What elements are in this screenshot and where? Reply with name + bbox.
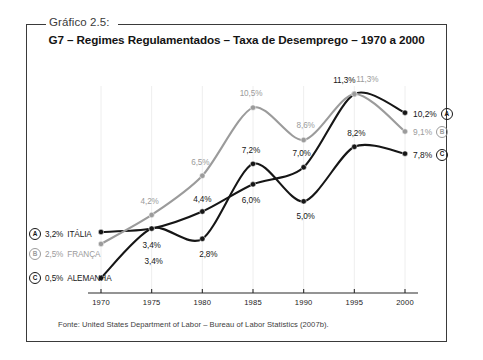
data-point-alemanha-1995	[352, 144, 357, 149]
legend-item-itália: A3,2%ITÁLIA	[29, 228, 92, 240]
end-label-value-a: 10,2%	[413, 109, 437, 119]
point-label-itália-1975: 3,4%	[143, 240, 161, 249]
data-point-alemanha-1990	[301, 199, 306, 204]
legend-label-itália: ITÁLIA	[67, 230, 91, 239]
point-label-frança-1985: 10,5%	[240, 88, 263, 97]
point-label-itália-1980: 4,4%	[193, 194, 211, 203]
legend-item-frança: B2,5%FRANÇA	[29, 248, 100, 260]
data-point-frança-1995	[352, 91, 357, 96]
legend-badge-icon-c: C	[29, 272, 41, 284]
data-point-itália-1985	[250, 182, 255, 187]
end-label-badge-icon-b: B	[436, 126, 448, 138]
end-label-c: 7,8%C	[413, 149, 448, 161]
legend-value-itália: 3,2%	[45, 230, 63, 239]
point-label-itália-1985: 6,0%	[242, 196, 260, 205]
point-label-frança-1980: 6,5%	[191, 157, 209, 166]
x-axis-label-1990: 1990	[295, 298, 313, 307]
data-point-frança-1980	[200, 173, 205, 178]
legend-label-alemanha: ALEMANHA	[67, 274, 111, 283]
end-label-badge-icon-a: A	[441, 108, 453, 120]
legend-label-frança: FRANÇA	[67, 250, 100, 259]
point-label-alemanha-1980: 2,8%	[199, 249, 217, 258]
end-label-value-b: 9,1%	[413, 127, 432, 137]
x-axis-label-1975: 1975	[143, 298, 161, 307]
data-point-frança-1970	[98, 241, 103, 246]
end-label-value-c: 7,8%	[413, 150, 432, 160]
legend-badge-icon-b: B	[29, 248, 41, 260]
data-point-frança-1975	[149, 212, 154, 217]
point-label-alemanha-1975: 3,4%	[145, 256, 163, 265]
chart-figure: Gráfico 2.5: G7 – Regimes Regulamentados…	[0, 0, 483, 360]
data-point-itália-1990	[301, 165, 306, 170]
x-axis-label-1980: 1980	[193, 298, 211, 307]
data-point-frança-1985	[250, 105, 255, 110]
legend-item-alemanha: C0,5%ALEMANHA	[29, 272, 112, 284]
point-label-frança-1975: 4,2%	[141, 196, 159, 205]
data-point-itália-2000	[402, 110, 407, 115]
point-label-frança-1990: 8,6%	[297, 121, 315, 130]
end-label-a: 10,2%A	[413, 108, 453, 120]
data-point-alemanha-1975	[149, 226, 154, 231]
end-label-b: 9,1%B	[413, 126, 448, 138]
source-note: Fonte: United States Department of Labor…	[58, 320, 329, 329]
point-label-itália-1995: 11,3%	[333, 76, 355, 85]
data-point-frança-1990	[301, 137, 306, 142]
end-label-badge-icon-c: C	[436, 149, 448, 161]
point-label-itália-1990: 7,0%	[293, 149, 311, 158]
data-point-itália-1970	[98, 229, 103, 234]
data-point-itália-1980	[200, 209, 205, 214]
point-label-alemanha-1995: 8,2%	[347, 128, 365, 137]
x-axis-label-2000: 2000	[396, 298, 414, 307]
x-axis-label-1995: 1995	[345, 298, 363, 307]
data-point-frança-2000	[402, 129, 407, 134]
x-axis-label-1985: 1985	[244, 298, 262, 307]
legend-badge-icon-a: A	[29, 228, 41, 240]
point-label-alemanha-1985: 7,2%	[242, 145, 260, 154]
legend-value-alemanha: 0,5%	[45, 274, 63, 283]
x-axis-label-1970: 1970	[92, 298, 110, 307]
data-point-alemanha-1985	[250, 161, 255, 166]
point-label-alemanha-1990: 5,0%	[297, 212, 315, 221]
point-label-frança-1995: 11,3%	[356, 75, 378, 84]
legend-value-frança: 2,5%	[45, 250, 63, 259]
data-point-alemanha-1980	[200, 236, 205, 241]
data-point-alemanha-2000	[402, 151, 407, 156]
